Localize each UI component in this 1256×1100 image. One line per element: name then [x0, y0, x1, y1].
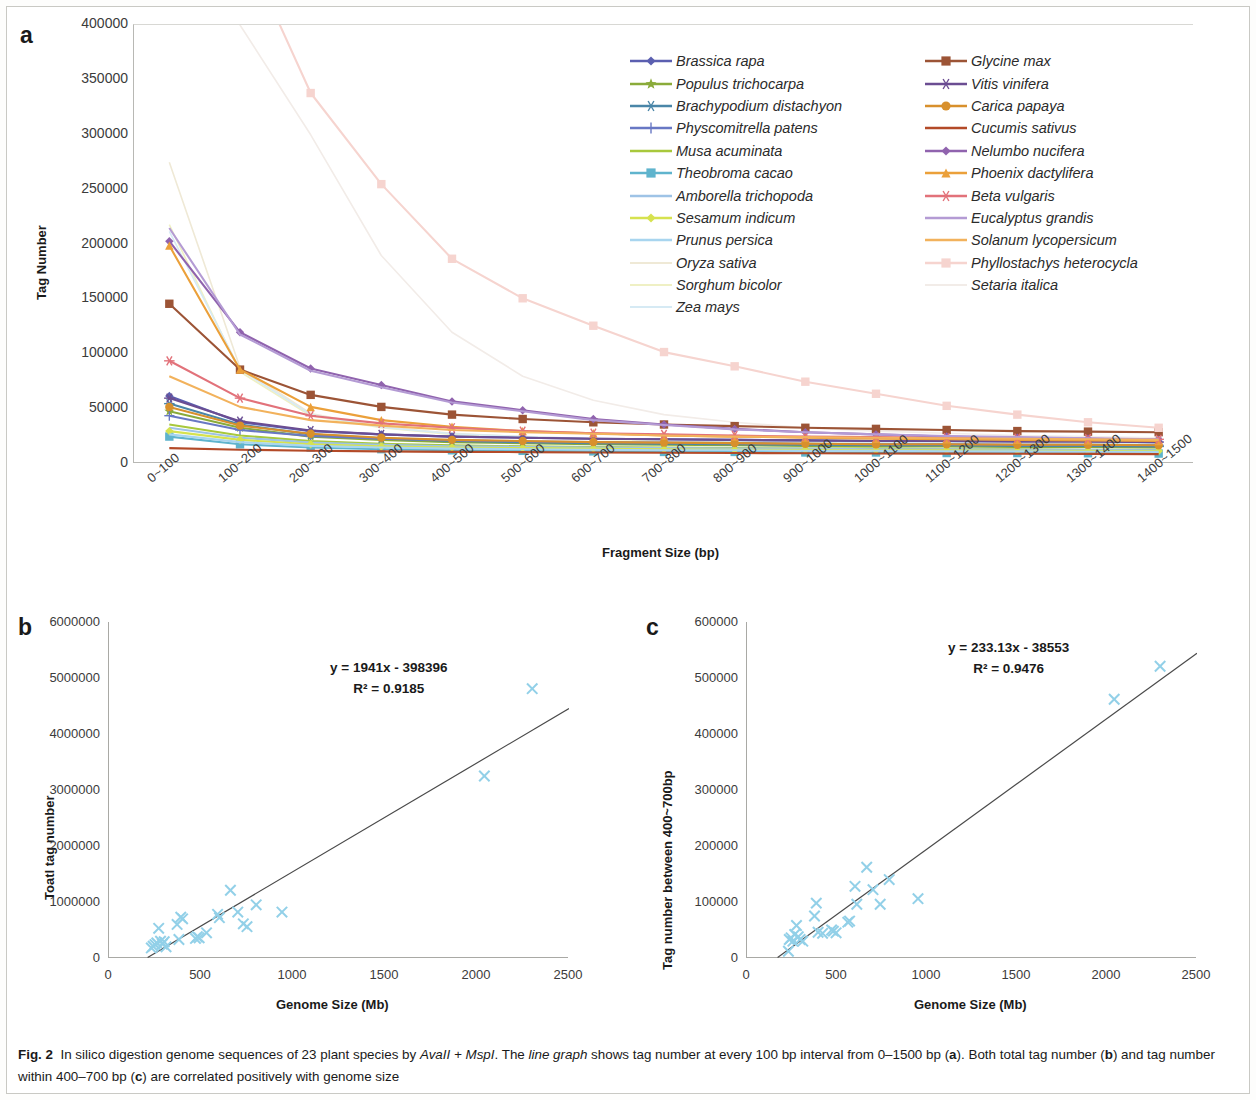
- legend-item: Populus trichocarpa: [628, 72, 923, 94]
- legend-item: Sesamum indicum: [628, 207, 923, 229]
- panel-a-y-tick: 200000: [81, 235, 128, 251]
- scatter-point: [868, 884, 878, 894]
- scatter-y-tick: 400000: [628, 726, 738, 741]
- legend-item: Amborella trichopoda: [628, 184, 923, 206]
- panel-c-equation: y = 233.13x - 38553: [948, 638, 1069, 659]
- panel-b-equation: y = 1941x - 398396: [330, 658, 447, 679]
- scatter-point: [479, 771, 489, 781]
- scatter-x-tick: 2000: [446, 967, 506, 982]
- scatter-point: [875, 899, 885, 909]
- panel-c-equation-annotation: y = 233.13x - 38553 R² = 0.9476: [948, 638, 1069, 680]
- scatter-x-tick: 1000: [896, 967, 956, 982]
- scatter-point: [783, 946, 793, 956]
- scatter-x-tick: 2000: [1076, 967, 1136, 982]
- legend-item-label: Phyllostachys heterocycla: [969, 255, 1138, 271]
- scatter-point: [809, 911, 819, 921]
- legend-key-icon: [628, 97, 674, 115]
- caption-text: ). Both total tag number (: [957, 1047, 1105, 1062]
- scatter-x-tick: 1500: [986, 967, 1046, 982]
- legend-key-icon: [923, 75, 969, 93]
- legend-key-icon: [628, 187, 674, 205]
- panel-c-r2: R² = 0.9476: [948, 659, 1069, 680]
- legend-item-label: Physcomitrella patens: [674, 120, 818, 136]
- legend-key-icon: [923, 254, 969, 272]
- legend-item: Physcomitrella patens: [628, 117, 923, 139]
- panel-a-y-tick: 300000: [81, 125, 128, 141]
- legend-item: Vitis vinifera: [923, 72, 1228, 94]
- panel-b-equation-annotation: y = 1941x - 398396 R² = 0.9185: [330, 658, 447, 700]
- legend-item: Sorghum bicolor: [628, 274, 923, 296]
- figure-caption: Fig. 2 In silico digestion genome sequen…: [18, 1044, 1240, 1087]
- legend-key-icon: [923, 231, 969, 249]
- scatter-point: [1109, 694, 1119, 704]
- caption-enzyme-names: AvaII + MspI: [420, 1047, 495, 1062]
- legend-item-label: Theobroma cacao: [674, 165, 793, 181]
- scatter-point: [791, 920, 801, 930]
- caption-line-graph-term: line graph: [529, 1047, 588, 1062]
- legend-key-icon: [628, 231, 674, 249]
- panel-a-line-chart: a Tag Number 050000100000150000200000250…: [0, 0, 1256, 580]
- legend-key-icon: [923, 97, 969, 115]
- legend-item-label: Amborella trichopoda: [674, 188, 813, 204]
- scatter-point: [913, 893, 923, 903]
- panel-c-scatter-chart: c Tag number between 400~700bp 010000020…: [628, 600, 1256, 1050]
- legend-item-label: Setaria italica: [969, 277, 1058, 293]
- legend-item-label: Brachypodium distachyon: [674, 98, 842, 114]
- legend-key-icon: [628, 298, 674, 316]
- panel-b-scatter-chart: b Toatl tag number 010000002000000300000…: [0, 600, 628, 1050]
- legend-item-label: Solanum lycopersicum: [969, 232, 1117, 248]
- scatter-point: [251, 900, 261, 910]
- legend-item: Carica papaya: [923, 95, 1228, 117]
- panel-a-y-tick: 400000: [81, 15, 128, 31]
- legend-item-label: Phoenix dactylifera: [969, 165, 1094, 181]
- panel-a-x-axis-title: Fragment Size (bp): [602, 545, 719, 560]
- scatter-point: [862, 862, 872, 872]
- legend-key-icon: [628, 209, 674, 227]
- legend-item: Zea mays: [628, 296, 923, 318]
- legend-item-label: Cucumis sativus: [969, 120, 1077, 136]
- panel-c-y-axis-title: Tag number between 400~700bp: [660, 770, 675, 970]
- scatter-y-tick: 2000000: [0, 838, 100, 853]
- legend-key-icon: [923, 164, 969, 182]
- panel-a-label: a: [20, 22, 33, 49]
- legend-item: Beta vulgaris: [923, 184, 1228, 206]
- scatter-x-tick: 0: [716, 967, 776, 982]
- legend-item-label: Populus trichocarpa: [674, 76, 804, 92]
- legend-item-label: Carica papaya: [969, 98, 1065, 114]
- caption-text: shows tag number at every 100 bp interva…: [587, 1047, 949, 1062]
- legend-item: [923, 296, 1228, 318]
- scatter-x-tick: 500: [170, 967, 230, 982]
- legend-item: Solanum lycopersicum: [923, 229, 1228, 251]
- legend-item-label: Oryza sativa: [674, 255, 757, 271]
- caption-ref-a: a: [949, 1047, 956, 1062]
- legend-item: Glycine max: [923, 50, 1228, 72]
- legend-item: Musa acuminata: [628, 140, 923, 162]
- legend-key-icon: [923, 142, 969, 160]
- scatter-y-tick: 3000000: [0, 782, 100, 797]
- caption-text: ) are correlated positively with genome …: [142, 1069, 399, 1084]
- scatter-x-tick: 2500: [538, 967, 598, 982]
- scatter-point: [153, 923, 163, 933]
- scatter-point: [1155, 661, 1165, 671]
- scatter-y-tick: 6000000: [0, 614, 100, 629]
- scatter-y-tick: 4000000: [0, 726, 100, 741]
- scatter-x-tick: 0: [78, 967, 138, 982]
- caption-text: . The: [495, 1047, 529, 1062]
- scatter-y-tick: 1000000: [0, 894, 100, 909]
- legend-key-icon: [923, 52, 969, 70]
- legend-item-label: Zea mays: [674, 299, 740, 315]
- legend-item: Oryza sativa: [628, 252, 923, 274]
- scatter-x-tick: 1500: [354, 967, 414, 982]
- legend-item-label: Beta vulgaris: [969, 188, 1055, 204]
- panel-a-y-tick: 350000: [81, 70, 128, 86]
- scatter-point: [242, 921, 252, 931]
- scatter-x-tick: 2500: [1166, 967, 1226, 982]
- legend-item-label: Brassica rapa: [674, 53, 765, 69]
- panel-a-y-tick: 0: [120, 454, 128, 470]
- panel-a-y-tick: 150000: [81, 289, 128, 305]
- legend-item-label: Sesamum indicum: [674, 210, 795, 226]
- legend-item: Setaria italica: [923, 274, 1228, 296]
- panel-a-legend: Brassica rapaGlycine maxPopulus trichoca…: [628, 50, 1228, 319]
- legend-item: Eucalyptus grandis: [923, 207, 1228, 229]
- panel-a-y-tick: 100000: [81, 344, 128, 360]
